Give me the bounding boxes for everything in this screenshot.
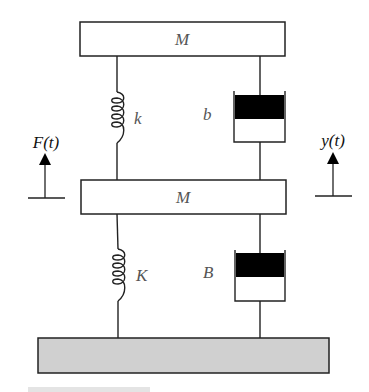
- force-input-arrow: [28, 153, 65, 198]
- caption-strip: [28, 387, 150, 392]
- top-mass: M: [80, 22, 285, 56]
- displacement-output-arrow: [315, 152, 352, 196]
- top-mass-label: M: [174, 30, 190, 49]
- upper-spring-label: k: [134, 109, 142, 128]
- upper-spring: [112, 56, 124, 180]
- lower-damper-label: B: [203, 263, 214, 282]
- upper-damper-label: b: [203, 105, 212, 124]
- mechanical-system-diagram: M k b M F(t) y(t) K: [0, 0, 369, 392]
- displacement-output-label: y(t): [319, 131, 345, 150]
- bottom-mass: M: [81, 180, 286, 214]
- lower-spring: [113, 214, 125, 338]
- bottom-mass-label: M: [175, 188, 191, 207]
- upper-damper: [234, 56, 285, 180]
- ground: [38, 338, 329, 373]
- lower-damper: [235, 214, 285, 338]
- force-input-label: F(t): [32, 133, 60, 152]
- lower-spring-label: K: [135, 266, 149, 285]
